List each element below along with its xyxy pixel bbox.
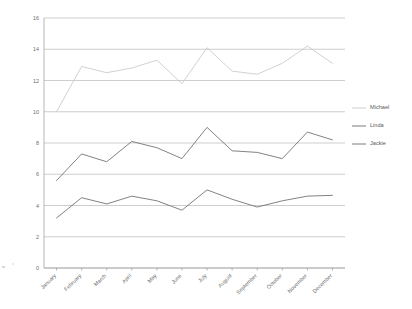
y-tick-label: 10 [33, 109, 39, 115]
y-tick-label: 2 [36, 234, 39, 240]
legend-label-michael: Michael [370, 104, 389, 110]
y-tick-label: 4 [36, 203, 39, 209]
y-tick-label: 12 [33, 78, 39, 84]
y-tick-label: 0 [36, 265, 39, 271]
chart-canvas: 0246810121416 JanuaryFebruaryMarchAprilM… [0, 0, 412, 309]
legend-label-linda: Linda [370, 122, 385, 128]
y-tick-label: 8 [36, 140, 39, 146]
chart-background [0, 0, 412, 309]
legend-label-jackie: Jackie [370, 140, 386, 146]
y-tick-label: 6 [36, 171, 39, 177]
edge-artifact-dot [12, 263, 14, 265]
y-tick-label: 16 [33, 15, 39, 21]
edge-artifact-mark [2, 266, 5, 268]
line-chart: 0246810121416 JanuaryFebruaryMarchAprilM… [0, 0, 412, 309]
y-tick-label: 14 [33, 46, 39, 52]
